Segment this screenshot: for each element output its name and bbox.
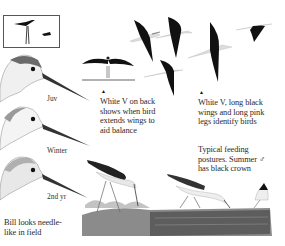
caption-feeding: Typical feeding postures. Summer ♂ has b… (198, 145, 265, 174)
label-winter: Winter (47, 146, 67, 155)
label-juv: Juv (47, 94, 57, 103)
caption-bill: Bill looks needle- like in field (4, 218, 62, 237)
marker-triangle-wings-icon: ▲ (199, 90, 204, 95)
label-2nd-yr: 2nd yr (47, 192, 66, 201)
feeding-bird-right-illustration (254, 183, 268, 208)
marker-triangle-back-icon: ▲ (101, 89, 106, 94)
caption-back-v: White V on back shows when bird extends … (100, 97, 155, 135)
caption-wings-legs: White V, long black wings and long pink … (198, 98, 264, 127)
feeding-bird-center-illustration (167, 174, 230, 208)
